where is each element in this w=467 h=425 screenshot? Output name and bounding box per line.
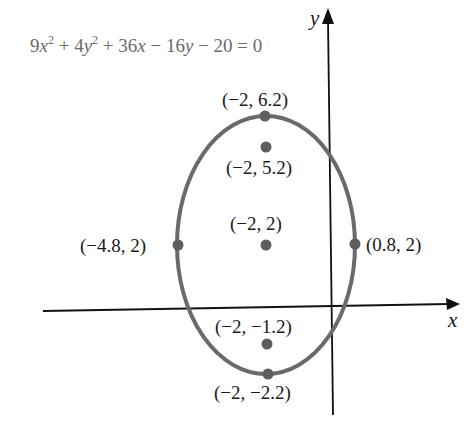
equation-part: 9 — [30, 35, 40, 56]
equation-part: y — [82, 35, 93, 56]
bottom-focus-label: (−2, −1.2) — [215, 316, 292, 338]
y-axis-label: y — [308, 6, 320, 30]
x-axis-label: x — [447, 308, 458, 332]
bottom-vertex-label: (−2, −2.2) — [214, 382, 291, 404]
top-focus-dot — [261, 142, 272, 153]
bottom-focus-dot — [262, 339, 273, 350]
top-vertex-dot — [260, 111, 271, 122]
right-vertex-dot — [350, 239, 361, 250]
center-label: (−2, 2) — [230, 213, 282, 235]
bottom-vertex-dot — [263, 369, 274, 380]
equation-part: − 16 — [146, 35, 185, 56]
left-vertex-label: (−4.8, 2) — [80, 235, 146, 257]
center-dot — [261, 240, 272, 251]
equation-part: − 20 = 0 — [193, 35, 262, 56]
top-vertex-label: (−2, 6.2) — [222, 89, 288, 111]
ellipse-equation: 9x2 + 4y2 + 36x − 16y − 20 = 0 — [30, 33, 262, 56]
top-focus-label: (−2, 5.2) — [226, 157, 292, 179]
y-axis-line — [328, 20, 333, 415]
equation-part: + 36 — [98, 35, 137, 56]
y-axis-arrow-icon — [322, 8, 334, 24]
x-axis-line — [43, 304, 450, 311]
ellipse-diagram: 9x2 + 4y2 + 36x − 16y − 20 = 0 x y (−2, … — [0, 0, 467, 425]
right-vertex-label: (0.8, 2) — [366, 234, 421, 256]
equation-part: y — [183, 35, 194, 56]
equation-part: + 4 — [54, 35, 84, 56]
left-vertex-dot — [173, 240, 184, 251]
